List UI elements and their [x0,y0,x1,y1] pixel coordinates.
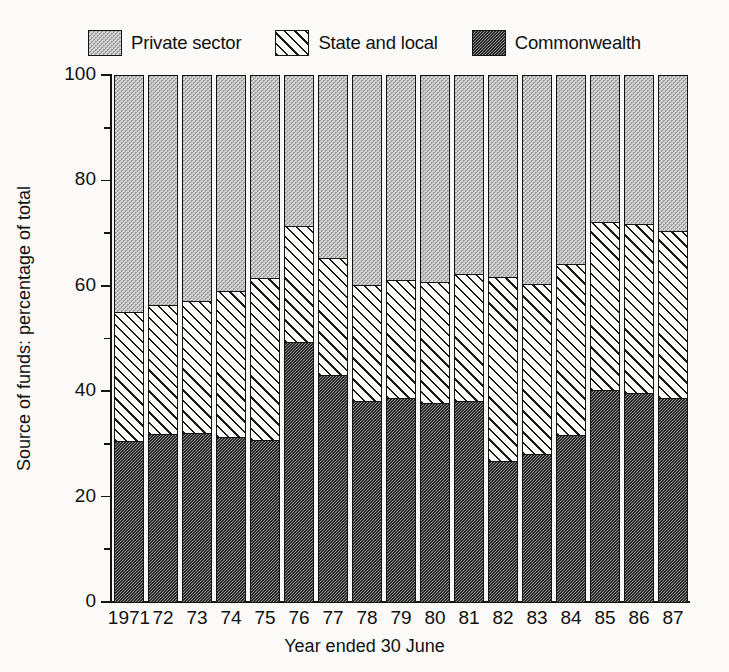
bar-81 [454,75,484,602]
y-axis-ticks: 020406080100 [50,0,96,672]
y-tick-major-40 [101,390,110,392]
bar-77 [318,75,348,602]
y-tick-minor-30 [104,443,110,445]
legend-label-commonwealth: Commonwealth [515,32,641,54]
bar-86 [624,75,654,602]
legend-item-private-sector: Private sector [88,30,241,56]
bar-73 [182,75,212,602]
bar-segment-private-sector-75 [251,76,279,279]
bar-segment-state-and-local-73 [183,302,211,434]
bar-segment-state-and-local-72 [149,306,177,434]
bar-segment-commonwealth-78 [353,402,381,602]
bar-segment-private-sector-83 [523,76,551,285]
bar-segment-private-sector-1971 [115,76,143,313]
chart-legend: Private sector State and local Commonwea… [0,22,729,64]
bar-83 [522,75,552,602]
bar-segment-state-and-local-78 [353,286,381,402]
bar-segment-state-and-local-85 [591,223,619,390]
bar-segment-commonwealth-73 [183,434,211,602]
chart-plot-area [112,75,690,602]
bar-74 [216,75,246,602]
bar-segment-private-sector-87 [659,76,687,232]
y-tick-minor-50 [104,338,110,340]
bar-segment-state-and-local-74 [217,292,245,438]
bar-80 [420,75,450,602]
bar-segment-private-sector-81 [455,76,483,275]
bar-segment-private-sector-85 [591,76,619,223]
y-tick-label-80: 80 [58,168,96,190]
y-tick-minor-90 [104,127,110,129]
bar-76 [284,75,314,602]
y-tick-label-100: 100 [58,63,96,85]
legend-swatch-state-and-local-icon [275,30,309,56]
bar-segment-private-sector-76 [285,76,313,227]
bar-segment-commonwealth-75 [251,441,279,602]
y-tick-label-60: 60 [58,274,96,296]
bar-segment-commonwealth-72 [149,435,177,602]
y-tick-minor-10 [104,548,110,550]
bar-segment-private-sector-80 [421,76,449,283]
bar-segment-state-and-local-1971 [115,313,143,442]
bar-segment-private-sector-78 [353,76,381,286]
bar-75 [250,75,280,602]
bar-segment-state-and-local-76 [285,227,313,343]
bar-segment-private-sector-86 [625,76,653,225]
bar-segment-commonwealth-83 [523,455,551,602]
bar-segment-state-and-local-83 [523,285,551,455]
bar-segment-state-and-local-82 [489,278,517,462]
y-tick-label-40: 40 [58,379,96,401]
legend-item-commonwealth: Commonwealth [472,30,641,56]
bar-79 [386,75,416,602]
legend-swatch-commonwealth-icon [472,30,506,56]
bar-segment-state-and-local-79 [387,281,415,399]
bar-84 [556,75,586,602]
y-tick-minor-70 [104,232,110,234]
x-axis-title: Year ended 30 June [0,636,729,657]
bar-segment-private-sector-72 [149,76,177,306]
bar-segment-commonwealth-77 [319,376,347,602]
bar-segment-private-sector-84 [557,76,585,265]
bar-segment-commonwealth-85 [591,391,619,602]
bar-segment-state-and-local-77 [319,259,347,376]
bar-segment-commonwealth-79 [387,399,415,602]
bar-78 [352,75,382,602]
bar-segment-state-and-local-80 [421,283,449,403]
bar-segment-state-and-local-84 [557,265,585,435]
bar-1971 [114,75,144,602]
bar-segment-commonwealth-80 [421,404,449,602]
y-tick-major-100 [101,74,110,76]
bar-segment-private-sector-77 [319,76,347,259]
bar-segment-commonwealth-84 [557,436,585,602]
bar-segment-commonwealth-87 [659,399,687,602]
y-tick-label-0: 0 [58,590,96,612]
y-tick-major-80 [101,180,110,182]
y-axis-title: Source of funds: percentage of total [14,69,35,589]
y-tick-label-20: 20 [58,485,96,507]
y-axis-title-wrap: Source of funds: percentage of total [0,0,40,672]
bar-85 [590,75,620,602]
bar-segment-state-and-local-81 [455,275,483,402]
bar-segment-private-sector-73 [183,76,211,302]
bar-segment-commonwealth-81 [455,402,483,602]
bar-segment-commonwealth-82 [489,462,517,602]
y-tick-major-20 [101,496,110,498]
x-tick-label-87: 87 [647,607,699,629]
legend-label-private-sector: Private sector [131,32,241,54]
bar-82 [488,75,518,602]
x-axis-tick-labels: 197172737475767778798081828384858687 [112,607,690,633]
legend-item-state-and-local: State and local [275,30,437,56]
bar-segment-commonwealth-76 [285,343,313,602]
bar-segment-commonwealth-1971 [115,442,143,602]
bar-segment-private-sector-74 [217,76,245,292]
bar-segment-private-sector-79 [387,76,415,281]
bar-segment-state-and-local-86 [625,225,653,394]
bar-segment-private-sector-82 [489,76,517,278]
bar-87 [658,75,688,602]
bar-segment-commonwealth-74 [217,438,245,602]
bar-72 [148,75,178,602]
bar-segment-state-and-local-87 [659,232,687,399]
y-tick-major-0 [101,601,110,603]
y-tick-major-60 [101,285,110,287]
bar-segment-state-and-local-75 [251,279,279,441]
bar-segment-commonwealth-86 [625,394,653,602]
